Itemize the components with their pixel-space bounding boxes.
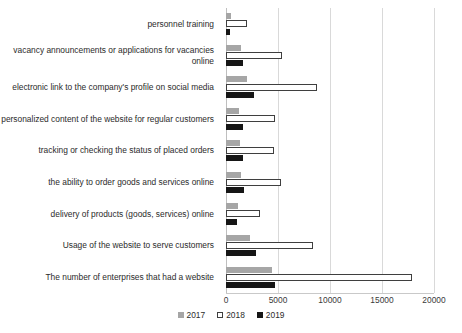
bar-2019 — [226, 155, 243, 161]
legend-swatch-icon — [217, 312, 223, 318]
x-tick-label-5000: 5000 — [269, 295, 288, 305]
bar-chart: personnel trainingvacancy announcements … — [0, 0, 462, 333]
bar-2018 — [226, 84, 317, 91]
category-label: The number of enterprises that had a web… — [0, 261, 220, 293]
bar-2017 — [226, 172, 241, 178]
plot-area — [226, 8, 434, 293]
bar-2019 — [226, 92, 254, 98]
bar-2018 — [226, 52, 282, 59]
legend-label: 2019 — [266, 310, 285, 320]
category-label: delivery of products (goods, services) o… — [0, 198, 220, 230]
bar-2018 — [226, 210, 260, 217]
bar-2017 — [226, 76, 247, 82]
bar-group — [226, 103, 434, 135]
x-tick-label-0: 0 — [224, 295, 229, 305]
category-label: electronic link to the company's profile… — [0, 71, 220, 103]
x-tick-label-10000: 10000 — [318, 295, 341, 305]
bar-2019 — [226, 250, 256, 256]
bar-2018 — [226, 179, 281, 186]
bar-2017 — [226, 13, 231, 19]
legend-item-2019[interactable]: 2019 — [257, 310, 285, 320]
bar-2018 — [226, 147, 274, 154]
bar-group — [226, 71, 434, 103]
category-label: personalized content of the website for … — [0, 103, 220, 135]
bar-group — [226, 8, 434, 40]
category-axis-labels: personnel trainingvacancy announcements … — [0, 8, 220, 293]
x-tick-label-20000: 20000 — [422, 295, 445, 305]
bar-group — [226, 135, 434, 167]
bar-2019 — [226, 187, 244, 193]
category-label: tracking or checking the status of place… — [0, 135, 220, 167]
x-axis-line — [226, 293, 434, 294]
bar-2018 — [226, 115, 275, 122]
bar-group — [226, 230, 434, 262]
bar-2019 — [226, 282, 275, 288]
bar-2019 — [226, 29, 230, 35]
legend-swatch-icon — [257, 312, 263, 318]
bar-group — [226, 198, 434, 230]
legend-item-2018[interactable]: 2018 — [217, 310, 245, 320]
bar-group — [226, 261, 434, 293]
legend-label: 2018 — [226, 310, 245, 320]
gridline-20000 — [434, 8, 435, 293]
bar-2018 — [226, 20, 247, 27]
x-axis-tick-labels: 05000100001500020000 — [226, 295, 434, 307]
x-tick-label-15000: 15000 — [370, 295, 393, 305]
bar-2017 — [226, 235, 250, 241]
bar-group — [226, 40, 434, 72]
bar-2017 — [226, 108, 239, 114]
legend-label: 2017 — [187, 310, 206, 320]
legend-swatch-icon — [178, 312, 184, 318]
bar-2017 — [226, 203, 238, 209]
bar-2017 — [226, 140, 240, 146]
category-label: the ability to order goods and services … — [0, 166, 220, 198]
bar-rows — [226, 8, 434, 293]
bar-2017 — [226, 45, 241, 51]
category-label: personnel training — [0, 8, 220, 40]
chart-legend: 201720182019 — [0, 310, 462, 320]
bar-2017 — [226, 267, 272, 273]
legend-item-2017[interactable]: 2017 — [178, 310, 206, 320]
bar-2018 — [226, 242, 313, 249]
bar-group — [226, 166, 434, 198]
bar-2019 — [226, 219, 237, 225]
bar-2019 — [226, 124, 243, 130]
bar-2018 — [226, 274, 412, 281]
category-label: vacancy announcements or applications fo… — [0, 40, 220, 72]
bar-2019 — [226, 60, 243, 66]
category-label: Usage of the website to serve customers — [0, 230, 220, 262]
